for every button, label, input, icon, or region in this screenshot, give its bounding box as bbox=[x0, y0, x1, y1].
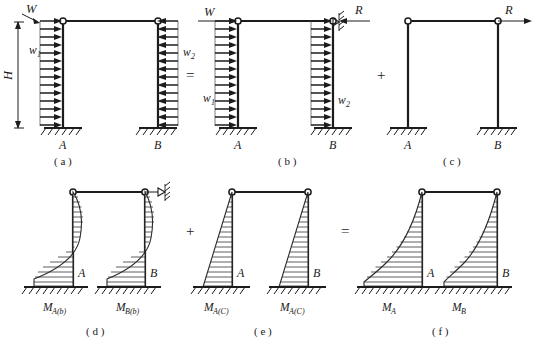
svg-text:w: w bbox=[338, 94, 346, 106]
operator-plus-top: + bbox=[377, 67, 385, 83]
panel-b-support-right bbox=[311, 128, 352, 135]
panel-f-moment-left bbox=[364, 192, 422, 287]
operator-equals-top: = bbox=[186, 67, 194, 83]
panel-d-moment-right-label: M B(b) bbox=[115, 301, 140, 316]
panel-e-moment-left-label: M A(C) bbox=[203, 301, 229, 316]
svg-text:w: w bbox=[183, 46, 191, 58]
panel-b-caption: ( b ) bbox=[278, 155, 297, 168]
svg-text:A(C): A(C) bbox=[288, 307, 305, 316]
panel-b-label-w1: w 1 bbox=[203, 92, 215, 107]
panel-e-label-A: A bbox=[236, 266, 245, 280]
panel-c-R-force bbox=[498, 18, 532, 24]
panel-b-label-w2: w 2 bbox=[338, 94, 350, 109]
panel-a-label-B: B bbox=[154, 138, 162, 152]
panel-f-label-B: B bbox=[502, 266, 510, 280]
svg-text:B: B bbox=[461, 307, 466, 316]
panel-a-w1-arrows bbox=[40, 18, 62, 128]
panel-d-moment-right bbox=[107, 192, 154, 287]
panel-d-support-right bbox=[95, 287, 161, 294]
panel-d-label-B: B bbox=[150, 266, 158, 280]
panel-d-roller-support bbox=[145, 182, 170, 201]
panel-a-w2-arrows bbox=[157, 18, 178, 128]
panel-d-moment-left-label: M A(b) bbox=[42, 301, 67, 316]
operator-plus-bottom: + bbox=[186, 223, 194, 239]
svg-text:2: 2 bbox=[191, 52, 195, 61]
panel-a-label-H: H bbox=[1, 70, 15, 81]
panel-c-label-A: A bbox=[403, 138, 412, 152]
panel-c-label-B: B bbox=[494, 138, 502, 152]
panel-d: A B M A(b) M B(b) ( d ) bbox=[22, 182, 170, 338]
panel-a: W H w 1 w 2 bbox=[1, 2, 195, 168]
panel-c-hinge-left bbox=[405, 18, 411, 24]
panel-b-R-reaction bbox=[339, 18, 370, 24]
panel-f-moment-left-label: M A bbox=[381, 301, 396, 316]
svg-text:A(C): A(C) bbox=[212, 307, 229, 316]
panel-b-label-W: W bbox=[204, 5, 216, 19]
svg-text:1: 1 bbox=[37, 50, 41, 59]
panel-e-moment-left bbox=[203, 192, 232, 287]
svg-text:A: A bbox=[390, 307, 396, 316]
panel-a-label-w1: w 1 bbox=[29, 44, 41, 59]
panel-d-label-A: A bbox=[77, 266, 86, 280]
structural-figure: W H w 1 w 2 bbox=[0, 0, 536, 352]
panel-c-support-left bbox=[387, 128, 427, 135]
panel-b: W R w 1 w 2 bbox=[198, 3, 370, 168]
panel-b-w1-arrows bbox=[215, 18, 237, 128]
panel-f-support-right bbox=[435, 287, 512, 294]
panel-f-support-left bbox=[355, 287, 437, 294]
panel-c-label-R: R bbox=[504, 3, 513, 17]
svg-text:B(b): B(b) bbox=[125, 307, 140, 316]
panel-d-support-left bbox=[22, 287, 88, 294]
panel-a-H-dimension bbox=[14, 21, 24, 129]
panel-a-caption: ( a ) bbox=[54, 155, 72, 168]
panel-f: A B M A M B ( f ) bbox=[355, 189, 512, 338]
panel-b-support-left bbox=[216, 128, 257, 135]
panel-b-w2-arrows bbox=[311, 18, 332, 128]
panel-f-label-A: A bbox=[426, 266, 435, 280]
panel-f-moment-right bbox=[444, 192, 497, 287]
panel-d-moment-left bbox=[34, 192, 83, 287]
panel-e-label-B: B bbox=[313, 266, 321, 280]
panel-d-caption: ( d ) bbox=[86, 325, 105, 338]
svg-text:2: 2 bbox=[346, 100, 350, 109]
panel-c-caption: ( c ) bbox=[443, 155, 461, 168]
panel-a-label-w2: w 2 bbox=[183, 46, 195, 61]
panel-f-caption: ( f ) bbox=[432, 325, 449, 338]
svg-text:w: w bbox=[203, 92, 211, 104]
svg-text:1: 1 bbox=[211, 98, 215, 107]
panel-a-support-left bbox=[41, 128, 82, 135]
panel-e: A B M A(C) M A(C) ( e ) bbox=[191, 189, 326, 338]
panel-a-support-right bbox=[136, 128, 177, 135]
panel-b-label-A: A bbox=[233, 138, 242, 152]
panel-c: R A B ( c ) bbox=[387, 3, 532, 168]
operator-equals-bottom: = bbox=[341, 223, 349, 239]
panel-e-moment-right-label: M A(C) bbox=[279, 301, 305, 316]
panel-e-caption: ( e ) bbox=[254, 325, 272, 338]
svg-text:A(b): A(b) bbox=[51, 307, 67, 316]
panel-b-label-B: B bbox=[329, 138, 337, 152]
panel-e-support-right bbox=[267, 287, 326, 294]
panel-a-label-W: W bbox=[26, 2, 38, 16]
panel-c-support-right bbox=[477, 128, 517, 135]
panel-a-label-A: A bbox=[58, 138, 67, 152]
svg-text:w: w bbox=[29, 44, 37, 56]
figure-container: W H w 1 w 2 bbox=[0, 0, 536, 352]
panel-f-moment-right-label: M B bbox=[451, 301, 466, 316]
panel-e-support-left bbox=[191, 287, 250, 294]
panel-e-moment-right bbox=[279, 192, 308, 287]
panel-b-label-R: R bbox=[354, 3, 363, 17]
